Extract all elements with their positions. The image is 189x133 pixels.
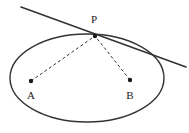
geometry-figure: P A B bbox=[0, 0, 189, 133]
point-a-label: A bbox=[27, 90, 35, 101]
segment-bp bbox=[95, 36, 130, 80]
point-p-dot bbox=[93, 34, 97, 38]
tangent-line bbox=[21, 7, 186, 67]
ellipse-shape bbox=[10, 34, 164, 122]
point-p-label: P bbox=[91, 14, 97, 25]
point-b-dot bbox=[128, 78, 132, 82]
point-b-label: B bbox=[126, 90, 133, 101]
point-a-dot bbox=[29, 79, 33, 83]
